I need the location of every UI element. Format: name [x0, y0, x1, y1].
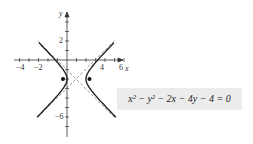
svg-text:−4: −4: [16, 63, 25, 72]
focus-left: [61, 77, 65, 81]
asymptotes: [38, 40, 115, 118]
focus-right: [88, 77, 92, 81]
hyperbola-plot: −4−2 46 2−6 y x: [0, 0, 253, 144]
svg-text:y: y: [58, 9, 63, 18]
svg-text:2: 2: [59, 36, 63, 45]
svg-text:6: 6: [119, 63, 123, 72]
equation-label: x² − y² − 2x − 4y − 4 = 0: [117, 88, 242, 110]
svg-text:−6: −6: [55, 112, 64, 121]
axes: [14, 12, 123, 137]
svg-text:−2: −2: [34, 63, 43, 72]
chart: −4−2 46 2−6 y x x² − y² − 2x − 4y − 4 = …: [0, 0, 253, 144]
svg-text:4: 4: [100, 63, 104, 72]
svg-text:x: x: [124, 64, 129, 73]
